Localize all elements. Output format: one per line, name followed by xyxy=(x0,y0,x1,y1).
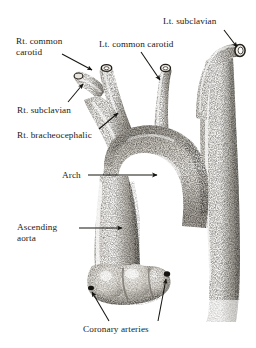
label-ascending-aorta: Ascending aorta xyxy=(17,222,57,244)
leader-rt-common-carotid xyxy=(62,54,92,70)
aorta-anatomy-group xyxy=(74,44,245,330)
anatomical-figure: Lt. subclavian Rt. common carotid Lt. co… xyxy=(0,0,256,348)
label-rt-bracheocephalic: Rt. bracheocephalic xyxy=(17,130,92,141)
leader-lt-common-carotid xyxy=(141,52,160,80)
label-rt-subclavian: Rt. subclavian xyxy=(17,105,71,116)
label-lt-common-carotid: Lt. common carotid xyxy=(99,39,174,50)
label-arch: Arch xyxy=(62,170,81,181)
aortic-root xyxy=(87,264,170,305)
label-rt-common-carotid: Rt. common carotid xyxy=(16,36,62,58)
leader-lt-subclavian xyxy=(224,30,237,47)
label-lt-subclavian: Lt. subclavian xyxy=(163,16,216,27)
ascending-aorta-vessel xyxy=(94,176,140,276)
label-coronary-arteries: Coronary arteries xyxy=(83,324,149,335)
leader-rt-subclavian xyxy=(68,84,83,102)
